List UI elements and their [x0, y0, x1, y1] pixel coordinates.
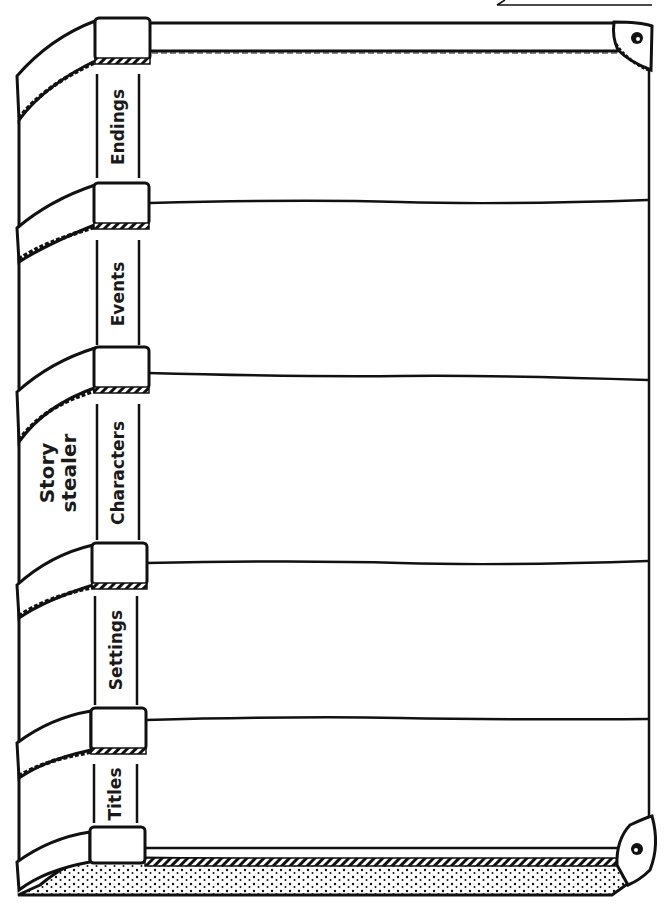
section-label-endings: Endings — [108, 89, 128, 165]
events-writing-area[interactable] — [155, 208, 647, 374]
title-line-2: stealer — [58, 434, 80, 513]
characters-writing-area[interactable] — [155, 384, 647, 560]
page-edge-line — [497, 0, 652, 5]
section-label-events: Events — [108, 262, 128, 327]
section-label-characters: Characters — [108, 421, 128, 525]
title-line-1: Story — [36, 434, 58, 513]
titles-writing-area[interactable] — [155, 724, 647, 846]
worksheet-title: Story stealer — [36, 434, 80, 513]
section-label-titles: Titles — [105, 767, 125, 820]
settings-writing-area[interactable] — [155, 568, 647, 718]
endings-writing-area[interactable] — [155, 58, 647, 200]
section-label-settings: Settings — [106, 610, 126, 690]
